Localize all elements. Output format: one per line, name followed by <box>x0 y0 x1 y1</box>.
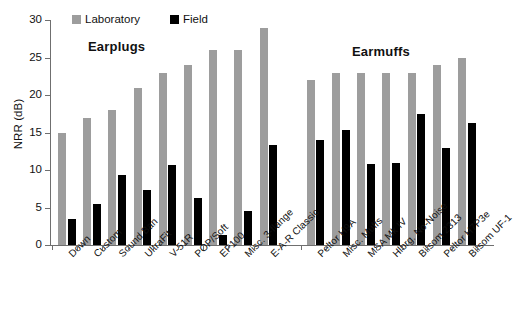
x-axis-tick <box>128 245 129 250</box>
x-axis-tick <box>477 245 478 250</box>
y-axis-tick-label: 25 <box>16 52 42 64</box>
bar-laboratory <box>260 28 268 246</box>
x-axis-tick <box>102 245 103 250</box>
bar-field <box>93 204 101 245</box>
y-axis-tick-label: 20 <box>16 89 42 101</box>
y-axis-tick <box>45 95 50 96</box>
bar-laboratory <box>134 88 142 246</box>
bar-laboratory <box>357 73 365 246</box>
y-axis-tick-label: 30 <box>16 14 42 26</box>
bar-field <box>316 140 324 245</box>
y-axis-tick <box>45 133 50 134</box>
x-axis-tick <box>402 245 403 250</box>
bar-laboratory <box>159 73 167 246</box>
bar-laboratory <box>408 73 416 246</box>
x-axis-tick <box>228 245 229 250</box>
x-axis-tick <box>153 245 154 250</box>
x-axis-tick <box>326 245 327 250</box>
bar-laboratory <box>209 50 217 245</box>
x-axis-tick <box>301 245 302 250</box>
x-axis-tick <box>452 245 453 250</box>
plot-area <box>51 20 493 245</box>
y-axis-tick <box>45 58 50 59</box>
x-axis-tick <box>254 245 255 250</box>
x-axis-tick <box>52 245 53 250</box>
y-axis-tick-label: 5 <box>16 202 42 214</box>
bar-laboratory <box>382 73 390 246</box>
y-axis-tick <box>45 170 50 171</box>
x-axis-tick <box>178 245 179 250</box>
bar-field <box>244 211 252 245</box>
bar-laboratory <box>234 50 242 245</box>
y-axis-tick-label: 15 <box>16 127 42 139</box>
y-axis-tick-label: 10 <box>16 164 42 176</box>
y-axis-tick <box>45 20 50 21</box>
figure-caption <box>0 319 500 329</box>
bar-field <box>68 219 76 245</box>
x-axis-tick <box>351 245 352 250</box>
y-axis-tick-label: 0 <box>16 239 42 251</box>
x-axis-tick <box>376 245 377 250</box>
x-axis-tick <box>427 245 428 250</box>
y-axis-tick <box>45 208 50 209</box>
bar-laboratory <box>58 133 66 246</box>
bar-laboratory <box>108 110 116 245</box>
bar-laboratory <box>83 118 91 246</box>
x-axis-tick <box>77 245 78 250</box>
bar-laboratory <box>332 73 340 246</box>
x-axis-tick <box>203 245 204 250</box>
bar-laboratory <box>184 65 192 245</box>
